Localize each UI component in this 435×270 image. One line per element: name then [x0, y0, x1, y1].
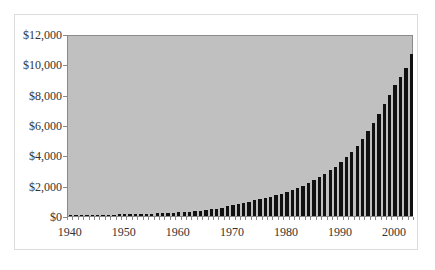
bar-1970: [231, 205, 234, 216]
x-tick-mark: [116, 217, 117, 220]
x-tick-label: 2000: [382, 226, 406, 238]
x-tick-label: 1980: [274, 226, 298, 238]
x-tick-mark: [262, 217, 263, 220]
bar-2000: [393, 85, 396, 216]
x-tick-mark: [110, 217, 111, 220]
x-tick-mark: [299, 217, 300, 220]
x-tick-mark: [197, 217, 198, 220]
x-tick-mark: [343, 217, 344, 220]
x-tick-mark: [278, 217, 279, 220]
x-tick-mark: [191, 217, 192, 220]
x-tick-mark: [272, 217, 273, 220]
bar-1983: [301, 186, 304, 216]
bar-1964: [199, 211, 202, 216]
x-tick-mark: [229, 217, 230, 220]
x-tick-mark: [132, 217, 133, 220]
x-tick-mark: [105, 217, 106, 220]
bar-1981: [291, 190, 294, 216]
bar-1980: [285, 192, 288, 216]
bar-2002: [404, 68, 407, 217]
bar-1986: [318, 177, 321, 216]
plot-area: [67, 35, 413, 217]
y-tick-label: $6,000: [29, 120, 62, 132]
x-tick-mark: [78, 217, 79, 220]
bar-1974: [253, 200, 256, 216]
x-tick-mark: [364, 217, 365, 220]
x-tick-mark: [213, 217, 214, 220]
bar-1969: [226, 206, 229, 216]
bar-1988: [329, 170, 332, 216]
bar-1944: [91, 215, 94, 217]
x-tick-mark: [218, 217, 219, 220]
bar-1951: [128, 214, 131, 216]
y-tick-label: $0: [50, 211, 62, 223]
x-tick-mark: [175, 217, 176, 220]
x-tick-mark: [348, 217, 349, 220]
bar-1967: [215, 209, 218, 217]
y-tick-mark: [63, 65, 67, 66]
bar-1982: [296, 188, 299, 216]
y-tick-mark: [63, 126, 67, 127]
x-tick-mark: [235, 217, 236, 220]
x-tick-mark: [202, 217, 203, 220]
bar-1975: [258, 199, 261, 216]
bar-1984: [307, 183, 310, 216]
bar-2003: [410, 54, 413, 216]
x-tick-mark: [72, 217, 73, 220]
bar-1966: [210, 209, 213, 216]
x-tick-mark: [370, 217, 371, 220]
bar-1978: [274, 195, 277, 216]
x-tick-mark: [99, 217, 100, 220]
bar-1940: [69, 215, 72, 217]
bar-1963: [193, 211, 196, 216]
x-tick-mark: [186, 217, 187, 220]
y-tick-mark: [63, 187, 67, 188]
x-tick-mark: [224, 217, 225, 220]
x-tick-mark: [143, 217, 144, 220]
bar-1945: [96, 215, 99, 217]
y-tick-label: $10,000: [23, 59, 62, 71]
bar-1948: [112, 215, 115, 217]
bar-1953: [139, 214, 142, 216]
x-tick-mark: [94, 217, 95, 220]
bar-1965: [204, 210, 207, 216]
x-tick-mark: [89, 217, 90, 220]
x-tick-label: 1950: [112, 226, 136, 238]
x-tick-mark: [381, 217, 382, 220]
bar-1979: [280, 194, 283, 217]
bar-1987: [323, 174, 326, 216]
bar-1962: [188, 212, 191, 217]
bar-1996: [372, 123, 375, 216]
x-tick-mark: [337, 217, 338, 220]
x-tick-mark: [164, 217, 165, 220]
x-tick-mark: [181, 217, 182, 220]
bar-1949: [118, 214, 121, 216]
bar-1977: [269, 197, 272, 217]
y-tick-label: $2,000: [29, 181, 62, 193]
x-tick-mark: [256, 217, 257, 220]
bar-series: [68, 36, 412, 216]
bar-1961: [183, 212, 186, 216]
bar-1957: [161, 213, 164, 216]
bar-1946: [101, 215, 104, 217]
bar-1999: [388, 95, 391, 217]
x-tick-mark: [154, 217, 155, 220]
x-tick-label: 1940: [58, 226, 82, 238]
x-tick-mark: [267, 217, 268, 220]
bar-1942: [80, 215, 83, 217]
x-tick-mark: [408, 217, 409, 220]
bar-1990: [339, 162, 342, 216]
bar-1991: [345, 157, 348, 216]
bar-1955: [150, 214, 153, 216]
x-tick-mark: [126, 217, 127, 220]
bar-1960: [177, 212, 180, 216]
x-tick-mark: [294, 217, 295, 220]
x-tick-mark: [283, 217, 284, 220]
bar-1993: [356, 146, 359, 217]
bar-1972: [242, 203, 245, 216]
y-tick-mark: [63, 35, 67, 36]
x-tick-mark: [67, 217, 68, 220]
x-tick-mark: [159, 217, 160, 220]
x-tick-label: 1990: [328, 226, 352, 238]
bar-1954: [145, 214, 148, 216]
